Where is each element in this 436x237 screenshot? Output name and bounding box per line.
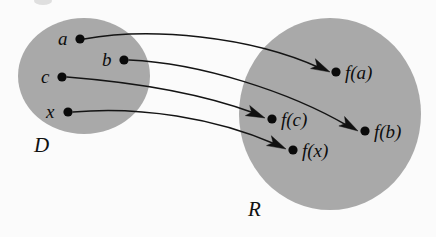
- domain-element-label: a: [58, 28, 68, 49]
- domain-element-dot: [119, 55, 128, 64]
- domain-set-label: D: [33, 133, 49, 157]
- range-element-dot: [267, 114, 276, 123]
- domain-element-label: b: [102, 49, 112, 70]
- range-element-dot: [331, 67, 340, 76]
- range-element-label: f(x): [302, 140, 328, 162]
- domain-element-dot: [63, 107, 72, 116]
- range-element-label: f(c): [281, 109, 307, 131]
- range-element-label: f(a): [345, 62, 372, 84]
- domain-element-dot: [57, 72, 66, 81]
- range-element-dot: [360, 126, 369, 135]
- range-element-dot: [288, 145, 297, 154]
- range-set-label: R: [247, 197, 261, 221]
- domain-set-region: [18, 18, 150, 134]
- diagram-canvas: abcxf(a)f(c)f(b)f(x) D R: [0, 0, 436, 237]
- range-element-label: f(b): [374, 121, 401, 143]
- domain-element-dot: [75, 34, 84, 43]
- domain-element-label: x: [45, 101, 55, 122]
- function-mapping-figure: abcxf(a)f(c)f(b)f(x) D R: [0, 0, 436, 237]
- range-set-region: [239, 18, 421, 210]
- domain-element-label: c: [41, 66, 50, 87]
